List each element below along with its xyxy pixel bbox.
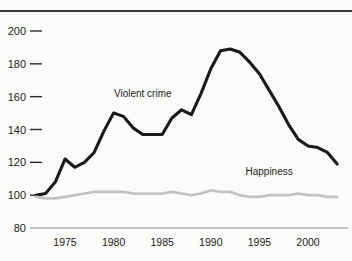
x-tick-label-1975: 1975 — [53, 236, 77, 248]
series-label-happiness: Happiness — [245, 166, 292, 177]
x-tick-label-1985: 1985 — [151, 236, 175, 248]
y-tick-label-120: 120 — [8, 156, 26, 168]
y-tick-label-100: 100 — [8, 189, 26, 201]
line-chart-plot: 20018016014012010080 1975198019851990199… — [0, 0, 352, 261]
y-tick-label-180: 180 — [8, 58, 26, 70]
x-tick-label-1990: 1990 — [199, 236, 223, 248]
x-axis-tick-labels: 197519801985199019952000 — [53, 236, 320, 248]
x-tick-label-1995: 1995 — [248, 236, 272, 248]
y-axis-tick-marks — [30, 31, 42, 195]
y-tick-label-200: 200 — [8, 25, 26, 37]
series-label-violent-crime: Violent crime — [114, 88, 172, 99]
chart-container: 20018016014012010080 1975198019851990199… — [0, 0, 352, 261]
x-tick-label-1980: 1980 — [102, 236, 126, 248]
series-line-happiness — [36, 190, 337, 198]
y-tick-label-80: 80 — [14, 222, 26, 234]
y-axis-tick-labels: 20018016014012010080 — [8, 25, 26, 234]
y-tick-label-140: 140 — [8, 124, 26, 136]
y-tick-label-160: 160 — [8, 91, 26, 103]
x-tick-label-2000: 2000 — [296, 236, 320, 248]
